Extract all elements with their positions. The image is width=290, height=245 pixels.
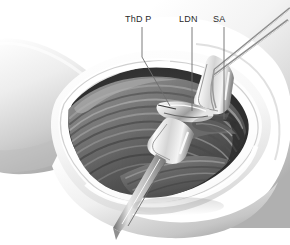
label-thd-p: ThD P bbox=[125, 14, 152, 25]
label-ldn: LDN bbox=[179, 14, 198, 25]
anatomy-illustration bbox=[0, 0, 290, 245]
surgical-illustration-figure: ThD P LDN SA bbox=[0, 0, 290, 245]
label-sa: SA bbox=[213, 14, 225, 25]
